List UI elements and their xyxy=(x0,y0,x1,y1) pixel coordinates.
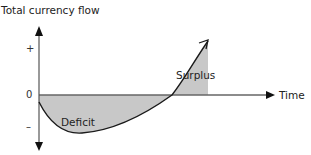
flow-axis-up-arrow-icon xyxy=(35,26,43,36)
tick-zero: 0 xyxy=(26,90,32,100)
currency-flow-diagram xyxy=(0,0,311,155)
y-axis-label: Total currency flow xyxy=(1,5,100,16)
surplus-label: Surplus xyxy=(176,70,215,81)
tick-plus: + xyxy=(26,44,34,54)
tick-minus: – xyxy=(26,122,31,132)
x-axis-label: Time xyxy=(279,90,305,101)
flow-axis-down-arrow-icon xyxy=(35,142,43,151)
time-axis-arrow-icon xyxy=(266,91,275,99)
deficit-label: Deficit xyxy=(61,117,95,128)
